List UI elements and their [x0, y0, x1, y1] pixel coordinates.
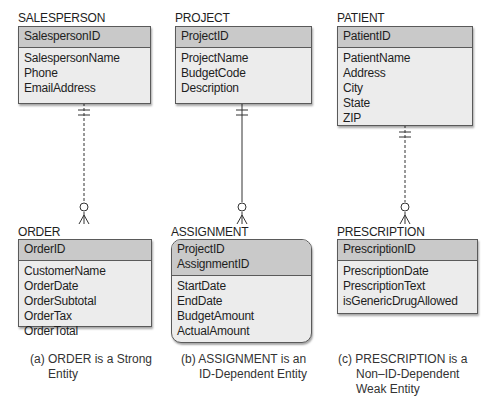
primary-key-section: PatientID [338, 27, 472, 48]
caption-a-line2: Entity [30, 367, 152, 382]
primary-key-section: PrescriptionID [338, 240, 477, 261]
caption-c-line1: (c) PRESCRIPTION is a [338, 352, 467, 366]
attribute: OrderTax [24, 309, 146, 324]
attribute: Description [181, 81, 306, 96]
attribute: CustomerName [24, 264, 146, 279]
attribute: isGenericDrugAllowed [343, 294, 472, 309]
primary-key-section: ProjectID AssignmentID [172, 240, 311, 276]
attribute: OrderDate [24, 279, 146, 294]
attributes-section: PrescriptionDate PrescriptionText isGene… [338, 261, 477, 313]
crowfoot-icon [79, 215, 84, 224]
caption-a: (a) ORDER is a Strong Entity [30, 352, 152, 382]
attributes-section: SalespersonName Phone EmailAddress [19, 48, 150, 100]
key-attribute: PatientID [343, 29, 467, 44]
zero-circle-icon [80, 203, 88, 211]
entity-name-patient: PATIENT [337, 11, 385, 25]
caption-b-line2: ID-Dependent Entity [181, 367, 307, 382]
caption-c-line3: Weak Entity [338, 382, 467, 397]
attribute: City [343, 81, 467, 96]
key-attribute: OrderID [24, 242, 146, 257]
primary-key-section: SalespersonID [19, 27, 150, 48]
entity-name-prescription: PRESCRIPTION [337, 225, 425, 239]
attribute: BudgetAmount [177, 309, 306, 324]
attribute: SalespersonName [24, 51, 145, 66]
attributes-section: PatientName Address City State ZIP [338, 48, 472, 130]
key-attribute: AssignmentID [177, 257, 306, 272]
attribute: Phone [24, 66, 145, 81]
attribute: EndDate [177, 294, 306, 309]
entity-name-project: PROJECT [175, 11, 230, 25]
attribute: ZIP [343, 111, 467, 126]
attribute: BudgetCode [181, 66, 306, 81]
key-attribute: ProjectID [181, 29, 306, 44]
caption-b: (b) ASSIGNMENT is an ID-Dependent Entity [181, 352, 307, 382]
key-attribute: PrescriptionID [343, 242, 472, 257]
attribute: Address [343, 66, 467, 81]
entity-assignment[interactable]: ProjectID AssignmentID StartDate EndDate… [171, 239, 312, 343]
attribute: PrescriptionDate [343, 264, 472, 279]
entity-project[interactable]: ProjectID ProjectName BudgetCode Descrip… [175, 26, 312, 104]
attribute: State [343, 96, 467, 111]
entity-name-order: ORDER [18, 225, 60, 239]
attribute: StartDate [177, 279, 306, 294]
relationship-patient-prescription [399, 125, 411, 224]
attribute: PrescriptionText [343, 279, 472, 294]
attribute: OrderTotal [24, 324, 146, 339]
caption-a-line1: (a) ORDER is a Strong [30, 352, 152, 366]
attribute: PatientName [343, 51, 467, 66]
entity-patient[interactable]: PatientID PatientName Address City State… [337, 26, 473, 126]
attributes-section: ProjectName BudgetCode Description [176, 48, 311, 100]
key-attribute: ProjectID [177, 242, 306, 257]
key-attribute: SalespersonID [24, 29, 145, 44]
caption-c: (c) PRESCRIPTION is a Non–ID-Dependent W… [338, 352, 467, 397]
attribute: ProjectName [181, 51, 306, 66]
entity-salesperson[interactable]: SalespersonID SalespersonName Phone Emai… [18, 26, 151, 104]
entity-prescription[interactable]: PrescriptionID PrescriptionDate Prescrip… [337, 239, 478, 314]
relationship-salesperson-order [78, 103, 90, 224]
caption-c-line2: Non–ID-Dependent [338, 367, 467, 382]
primary-key-section: OrderID [19, 240, 151, 261]
attributes-section: StartDate EndDate BudgetAmount ActualAmo… [172, 276, 311, 343]
attribute: OrderSubtotal [24, 294, 146, 309]
entity-name-assignment: ASSIGNMENT [171, 225, 248, 239]
relationship-project-assignment [236, 103, 248, 224]
attributes-section: CustomerName OrderDate OrderSubtotal Ord… [19, 261, 151, 343]
attribute: EmailAddress [24, 81, 145, 96]
attribute: ActualAmount [177, 324, 306, 339]
caption-b-line1: (b) ASSIGNMENT is an [181, 352, 306, 366]
primary-key-section: ProjectID [176, 27, 311, 48]
entity-order[interactable]: OrderID CustomerName OrderDate OrderSubt… [18, 239, 152, 327]
entity-name-salesperson: SALESPERSON [18, 11, 105, 25]
